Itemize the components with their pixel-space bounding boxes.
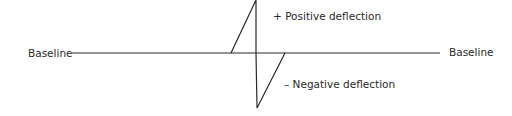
negative-deflection-label: – Negative deflection xyxy=(284,79,395,90)
deflection-diagram: Baseline Baseline + Positive deflection … xyxy=(0,0,512,116)
baseline-left-label: Baseline xyxy=(28,48,73,59)
positive-deflection-label: + Positive deflection xyxy=(273,11,381,22)
baseline-right-label: Baseline xyxy=(449,47,494,58)
negative-deflection-waveform xyxy=(256,53,285,108)
waveform-drawing xyxy=(0,0,512,116)
positive-deflection-waveform xyxy=(231,0,256,53)
